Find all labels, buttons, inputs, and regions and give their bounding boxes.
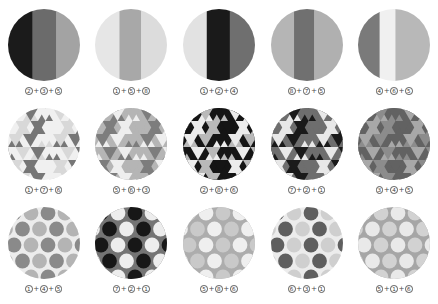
plus-sign: + [48, 284, 55, 294]
circled-number: 6 [405, 285, 413, 293]
circled-number: 5 [200, 285, 208, 293]
circled-number: 1 [318, 186, 326, 194]
swatch-caption: 1+4+5 [25, 284, 62, 294]
circled-number: 5 [318, 87, 326, 95]
texture-swatch-polka-dots [95, 207, 167, 279]
circled-number: 6 [128, 186, 136, 194]
plus-sign: + [383, 284, 390, 294]
plus-sign: + [296, 185, 303, 195]
circled-number: 5 [113, 186, 121, 194]
circled-number: 4 [230, 87, 238, 95]
plus-sign: + [296, 86, 303, 96]
plus-sign: + [223, 86, 230, 96]
swatch-caption: 5+1+6 [376, 284, 413, 294]
swatch-cell-r1c3: 1+2+4 [175, 4, 263, 103]
circled-number: 4 [40, 285, 48, 293]
plus-sign: + [398, 86, 405, 96]
swatch-caption: 1+2+4 [200, 86, 237, 96]
swatch-cell-r1c1: 2+3+5 [0, 4, 88, 103]
circled-number: 7 [40, 186, 48, 194]
circled-number: 3 [376, 186, 384, 194]
swatch-cell-r3c4: 6+3+1 [263, 202, 351, 301]
circled-number: 8 [215, 285, 223, 293]
swatch-caption: 1+7+6 [25, 185, 62, 195]
swatch-caption: 8+7+5 [288, 86, 325, 96]
swatch-caption: 7+2+1 [113, 284, 150, 294]
circled-number: 3 [303, 285, 311, 293]
plus-sign: + [120, 86, 127, 96]
circled-number: 1 [25, 186, 33, 194]
plus-sign: + [398, 284, 405, 294]
circled-number: 6 [230, 186, 238, 194]
plus-sign: + [135, 185, 142, 195]
swatch-cell-r2c1: 1+7+6 [0, 103, 88, 202]
swatch-cell-r2c2: 5+6+3 [88, 103, 176, 202]
swatch-cell-r2c3: 2+8+6 [175, 103, 263, 202]
swatch-caption: 5+8+6 [200, 284, 237, 294]
plus-sign: + [208, 86, 215, 96]
circled-number: 1 [142, 285, 150, 293]
plus-sign: + [135, 284, 142, 294]
plus-sign: + [310, 185, 317, 195]
circled-number: 7 [113, 285, 121, 293]
circled-number: 5 [405, 87, 413, 95]
texture-swatch-vertical-stripes [271, 9, 343, 81]
plus-sign: + [120, 185, 127, 195]
swatch-caption: 2+8+6 [200, 185, 237, 195]
circled-number: 8 [142, 87, 150, 95]
swatch-cell-r3c2: 7+2+1 [88, 202, 176, 301]
swatch-cell-r2c4: 7+2+1 [263, 103, 351, 202]
circled-number: 3 [40, 87, 48, 95]
swatch-cell-r3c1: 1+4+5 [0, 202, 88, 301]
swatch-caption: 4+6+5 [376, 86, 413, 96]
swatch-cell-r1c4: 8+7+5 [263, 4, 351, 103]
plus-sign: + [223, 185, 230, 195]
circled-number: 2 [303, 186, 311, 194]
texture-swatch-vertical-stripes [183, 9, 255, 81]
swatch-caption: 1+5+8 [113, 86, 150, 96]
circled-number: 7 [303, 87, 311, 95]
circled-number: 5 [376, 285, 384, 293]
plus-sign: + [223, 284, 230, 294]
circled-number: 5 [128, 87, 136, 95]
texture-swatch-triangles [271, 108, 343, 180]
texture-swatch-vertical-stripes [358, 9, 430, 81]
plus-sign: + [398, 185, 405, 195]
swatch-caption: 6+3+1 [288, 284, 325, 294]
circled-number: 2 [25, 87, 33, 95]
plus-sign: + [310, 86, 317, 96]
swatch-caption: 3+4+5 [376, 185, 413, 195]
plus-sign: + [120, 284, 127, 294]
circled-number: 6 [390, 87, 398, 95]
texture-swatch-triangles [95, 108, 167, 180]
swatch-grid: 2+3+51+5+81+2+48+7+54+6+51+7+65+6+32+8+6… [0, 4, 438, 301]
circled-number: 1 [113, 87, 121, 95]
plus-sign: + [48, 185, 55, 195]
swatch-caption: 7+2+1 [288, 185, 325, 195]
swatch-cell-r3c5: 5+1+6 [350, 202, 438, 301]
circled-number: 5 [405, 186, 413, 194]
swatch-cell-r3c3: 5+8+6 [175, 202, 263, 301]
texture-swatch-vertical-stripes [8, 9, 80, 81]
circled-number: 4 [376, 87, 384, 95]
texture-swatch-triangles [183, 108, 255, 180]
plus-sign: + [33, 86, 40, 96]
circled-number: 8 [215, 186, 223, 194]
plus-sign: + [48, 86, 55, 96]
plus-sign: + [310, 284, 317, 294]
circled-number: 1 [25, 285, 33, 293]
texture-swatch-polka-dots [8, 207, 80, 279]
texture-swatch-polka-dots [271, 207, 343, 279]
circled-number: 5 [55, 87, 63, 95]
texture-swatch-vertical-stripes [95, 9, 167, 81]
swatch-caption: 2+3+5 [25, 86, 62, 96]
circled-number: 1 [200, 87, 208, 95]
circled-number: 2 [128, 285, 136, 293]
plus-sign: + [33, 284, 40, 294]
swatch-caption: 5+6+3 [113, 185, 150, 195]
circled-number: 6 [55, 186, 63, 194]
texture-swatch-triangles [358, 108, 430, 180]
circled-number: 8 [288, 87, 296, 95]
plus-sign: + [383, 86, 390, 96]
plus-sign: + [208, 284, 215, 294]
